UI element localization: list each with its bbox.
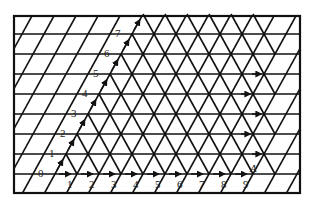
backslash-line: [253, 54, 264, 74]
backslash-line: [187, 94, 198, 114]
backslash-line: [264, 74, 275, 94]
backslash-line: [242, 114, 253, 134]
grid-lines: [0, 16, 311, 193]
slant-line: [309, 16, 311, 193]
row-label: 3: [71, 107, 77, 119]
backslash-line: [209, 54, 220, 74]
backslash-line: [77, 134, 88, 154]
backslash-line: [198, 154, 209, 174]
column-label: 2: [89, 178, 95, 190]
arrow-icon: [57, 160, 63, 170]
backslash-line: [209, 134, 220, 154]
backslash-line: [176, 154, 187, 174]
backslash-line: [143, 134, 154, 154]
row-label: 2: [60, 127, 66, 139]
backslash-line: [110, 154, 121, 174]
backslash-line: [99, 134, 110, 154]
backslash-line: [176, 74, 187, 94]
backslash-line: [198, 74, 209, 94]
row-label: 4: [82, 87, 88, 99]
row-label: 0: [38, 167, 44, 179]
backslash-line: [165, 134, 176, 154]
backslash-line: [220, 34, 231, 54]
column-label: 8: [221, 178, 227, 190]
backslash-line: [154, 74, 165, 94]
arrow-icon: [79, 120, 85, 130]
backslash-line: [121, 134, 132, 154]
backslash-line: [165, 94, 176, 114]
backslash-line: [231, 54, 242, 74]
backslash-line: [220, 74, 231, 94]
column-label: 5: [155, 178, 161, 190]
slant-line: [1, 16, 98, 193]
point-a-label: A: [249, 162, 257, 174]
backslash-line: [154, 114, 165, 134]
column-label: 4: [133, 178, 139, 190]
backslash-line: [88, 114, 99, 134]
backslash-line: [187, 134, 198, 154]
column-label: 9: [243, 178, 249, 190]
backslash-line: [132, 74, 143, 94]
backslash-line: [99, 94, 110, 114]
column-label: 7: [199, 178, 205, 190]
backslash-line: [264, 154, 275, 174]
column-label: 6: [177, 178, 183, 190]
row-label: 5: [93, 67, 99, 79]
backslash-line: [209, 94, 220, 114]
backslash-line: [176, 34, 187, 54]
backslash-line: [110, 114, 121, 134]
backslash-line: [220, 154, 231, 174]
row-label: 1: [49, 147, 55, 159]
backslash-line: [198, 34, 209, 54]
backslash-line: [264, 34, 275, 54]
arrow-icon: [90, 100, 96, 110]
row-label: 6: [104, 47, 110, 59]
backslash-line: [154, 34, 165, 54]
backslash-line: [187, 54, 198, 74]
backslash-line: [110, 74, 121, 94]
row-label: 7: [115, 27, 121, 39]
column-label: 3: [111, 178, 117, 190]
backslash-line: [66, 154, 77, 174]
backslash-line: [242, 74, 253, 94]
backslash-line: [132, 114, 143, 134]
slant-line: [287, 16, 311, 193]
backslash-line: [88, 154, 99, 174]
backslash-line: [264, 114, 275, 134]
arrow-icon: [134, 20, 140, 30]
backslash-line: [198, 114, 209, 134]
arrow-icon: [112, 60, 118, 70]
backslash-line: [165, 54, 176, 74]
backslash-line: [132, 34, 143, 54]
backslash-line: [231, 134, 242, 154]
column-label: 1: [67, 178, 73, 190]
backslash-line: [231, 94, 242, 114]
arrow-icon: [123, 40, 129, 50]
slant-line: [221, 16, 311, 193]
arrow-icon: [68, 140, 74, 150]
lattice-diagram: 01234567123456789A: [0, 0, 311, 204]
arrow-icon: [101, 80, 107, 90]
backslash-line: [121, 54, 132, 74]
backslash-line: [143, 94, 154, 114]
backslash-line: [253, 94, 264, 114]
backslash-line: [121, 94, 132, 114]
backslash-line: [143, 54, 154, 74]
backslash-line: [176, 114, 187, 134]
backslash-line: [242, 34, 253, 54]
slant-line: [0, 16, 10, 193]
backslash-line: [253, 134, 264, 154]
backslash-line: [220, 114, 231, 134]
backslash-line: [132, 154, 143, 174]
backslash-line: [154, 154, 165, 174]
